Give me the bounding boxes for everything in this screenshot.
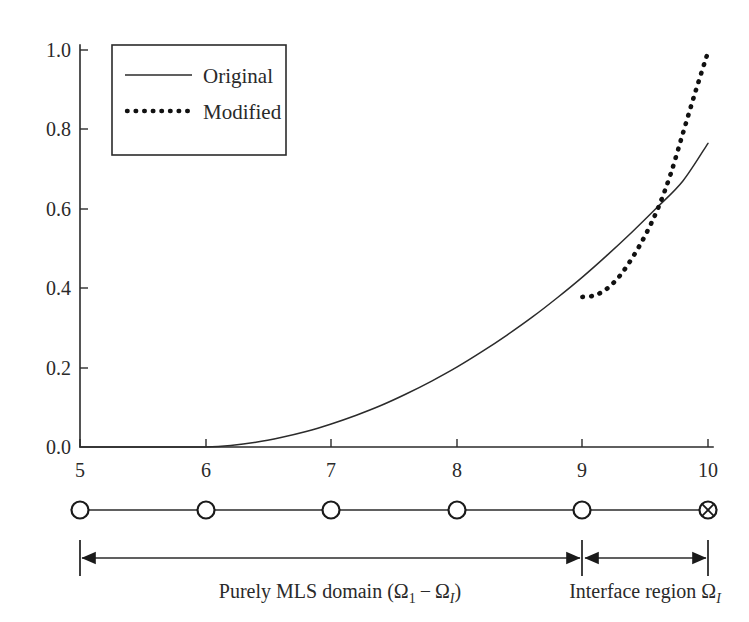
x-tick-label: 9 <box>577 459 587 481</box>
x-tick-label: 7 <box>326 459 336 481</box>
caption-subscript-I: I <box>715 591 722 606</box>
node-marker-circle <box>574 502 591 519</box>
caption-mid-text: − Ω <box>416 580 450 602</box>
caption-main-text: Purely MLS domain (Ω <box>219 580 409 603</box>
caption-close-paren: ) <box>455 580 462 603</box>
y-tick-label: 0.6 <box>46 198 71 220</box>
y-tick-label: 0.2 <box>46 357 71 379</box>
node-diagram <box>72 502 717 519</box>
node-marker-circle <box>449 502 466 519</box>
figure-root: 1.0 0.8 0.6 0.4 0.2 0.0 5 6 7 8 9 10 <box>0 0 749 622</box>
x-tick-label: 5 <box>75 459 85 481</box>
node-marker-circle <box>323 502 340 519</box>
y-tick-label: 0.8 <box>46 118 71 140</box>
caption-purely-mls-domain: Purely MLS domain (Ω1 − ΩI) <box>219 580 461 606</box>
span-captions: Purely MLS domain (Ω1 − ΩI) Interface re… <box>219 580 722 606</box>
legend-label-original: Original <box>203 64 273 88</box>
x-axis-tick-labels: 5 6 7 8 9 10 <box>75 459 718 481</box>
y-axis-ticks <box>80 50 88 368</box>
curve-original-series <box>80 143 708 447</box>
legend-label-modified: Modified <box>203 100 282 124</box>
x-tick-label: 10 <box>698 459 718 481</box>
chart-canvas: 1.0 0.8 0.6 0.4 0.2 0.0 5 6 7 8 9 10 <box>0 0 749 622</box>
y-tick-label: 1.0 <box>46 39 71 61</box>
span-arrows <box>80 540 708 576</box>
x-axis-ticks <box>80 439 708 447</box>
node-marker-circle-cross <box>700 502 717 519</box>
x-tick-label: 8 <box>452 459 462 481</box>
node-marker-circle <box>198 502 215 519</box>
caption-subscript-1: 1 <box>409 591 416 606</box>
node-marker-circle <box>72 502 89 519</box>
legend: Original Modified <box>112 45 286 155</box>
y-tick-label: 0.4 <box>46 277 71 299</box>
caption-main-text: Interface region Ω <box>569 580 716 603</box>
caption-interface-region: Interface region ΩI <box>569 580 722 606</box>
y-tick-label: 0.0 <box>46 436 71 458</box>
x-tick-label: 6 <box>201 459 211 481</box>
y-axis-tick-labels: 1.0 0.8 0.6 0.4 0.2 0.0 <box>46 39 71 458</box>
